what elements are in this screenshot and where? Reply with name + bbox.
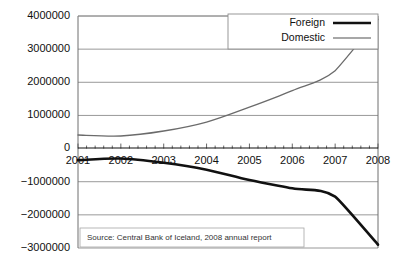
legend-label-foreign: Foreign (289, 16, 325, 28)
chart-figure: 40000003000000200000010000000−1000000−20… (0, 0, 398, 269)
y-axis-tick-label: −2000000 (21, 208, 70, 220)
y-axis-tick-label: 0 (64, 141, 70, 153)
chart-legend: Foreign Domestic (228, 14, 378, 49)
legend-label-domestic: Domestic (281, 31, 325, 43)
x-axis-tick-label: 2006 (280, 154, 304, 166)
line-chart: 40000003000000200000010000000−1000000−20… (0, 0, 398, 269)
y-axis-tick-label: 4000000 (27, 9, 70, 21)
source-note: Source: Central Bank of Iceland, 2008 an… (80, 228, 304, 247)
y-axis-tick-label: 1000000 (27, 108, 70, 120)
y-axis-tick-label: 3000000 (27, 42, 70, 54)
source-note-text: Source: Central Bank of Iceland, 2008 an… (87, 233, 272, 242)
x-axis-tick-label: 2005 (237, 154, 261, 166)
x-axis-tick-label: 2004 (194, 154, 218, 166)
x-axis-tick-label: 2008 (366, 154, 390, 166)
y-axis-tick-label: −1000000 (21, 175, 70, 187)
x-axis-tick-label: 2007 (323, 154, 347, 166)
y-axis-tick-label: 2000000 (27, 75, 70, 87)
y-axis-tick-label: −3000000 (21, 241, 70, 253)
